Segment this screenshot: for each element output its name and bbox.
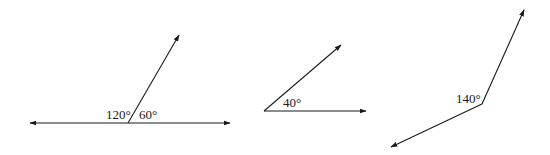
figure-linear-pair: 120° 60° [30,35,230,123]
angle-label-140: 140° [456,91,481,106]
angles-diagram: 120° 60° 40° 140° [0,0,550,155]
figure-obtuse-angle: 140° [391,10,524,147]
angle-label-120: 120° [106,107,131,122]
lower-ray [391,104,482,147]
figure-acute-angle: 40° [264,45,366,111]
upper-ray [264,45,341,111]
upper-ray [482,10,524,104]
angle-label-60: 60° [139,107,157,122]
angle-label-40: 40° [283,95,301,110]
